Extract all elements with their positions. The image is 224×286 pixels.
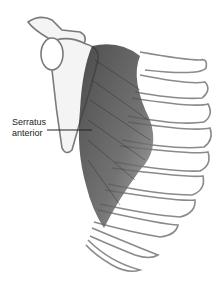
label-line-1: Serratus (12, 117, 46, 128)
serratus-anterior-label: Serratus anterior (12, 117, 46, 139)
anatomy-illustration (0, 0, 224, 286)
label-line-2: anterior (12, 128, 46, 139)
serratus-anterior-muscle (79, 44, 153, 228)
